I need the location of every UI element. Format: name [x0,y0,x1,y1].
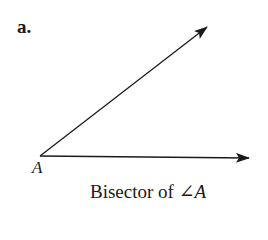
vertex-label: A [32,158,42,178]
upper-ray [40,27,207,156]
caption: Bisector of ∠A [90,180,206,203]
angle-symbol-icon: ∠ [179,181,195,202]
caption-angle-name: A [195,181,207,202]
lower-ray [40,156,249,158]
caption-text: Bisector of [90,181,179,202]
